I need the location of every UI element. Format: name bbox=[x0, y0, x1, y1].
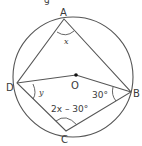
angle-label-b: 30° bbox=[92, 90, 108, 100]
angle-label-c: 2x – 30° bbox=[51, 104, 88, 114]
center-point bbox=[74, 73, 78, 77]
angle-label-d: y bbox=[38, 88, 44, 97]
label-d: D bbox=[6, 82, 14, 93]
cut-off-caption: g bbox=[44, 0, 50, 5]
circumcircle bbox=[13, 17, 133, 137]
angle-arc-a bbox=[57, 31, 74, 35]
label-o: O bbox=[71, 80, 79, 91]
angle-label-a: x bbox=[64, 37, 69, 46]
cyclic-quadrilateral-diagram: g A D B C O x y 30° 2x – 30° bbox=[0, 0, 142, 146]
angle-arc-d bbox=[33, 84, 35, 99]
label-a: A bbox=[60, 7, 67, 18]
label-b: B bbox=[133, 88, 140, 99]
label-c: C bbox=[61, 134, 68, 145]
angle-arc-b bbox=[112, 87, 116, 101]
